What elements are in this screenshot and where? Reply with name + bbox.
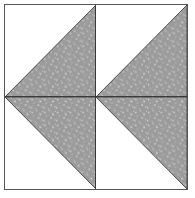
triangle-bottom-right <box>96 97 187 189</box>
unit-grid <box>5 5 187 189</box>
quilt-block-figure <box>0 0 195 198</box>
unit-top-left <box>5 5 96 97</box>
triangle-bottom-left <box>5 97 96 189</box>
unit-bottom-left <box>5 97 96 189</box>
unit-top-right <box>96 5 187 97</box>
unit-bottom-right <box>96 97 187 189</box>
triangle-top-left <box>5 5 96 97</box>
block-frame <box>4 4 188 190</box>
triangle-top-right <box>96 5 187 97</box>
